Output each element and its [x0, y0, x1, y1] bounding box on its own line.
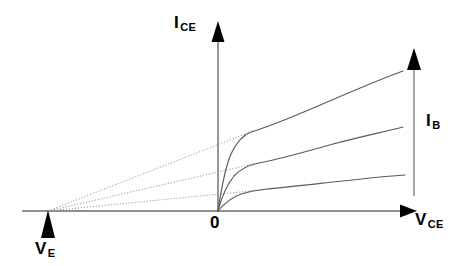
early-voltage-label-main: V	[35, 239, 47, 258]
extrapolation-line-low	[48, 189, 271, 211]
x-axis-label-sub: CE	[427, 218, 444, 230]
y-axis-label-sub: CE	[179, 21, 196, 33]
curve-ib-low	[218, 175, 405, 211]
curve-ib-high	[218, 71, 403, 211]
origin-label: 0	[210, 214, 219, 231]
characteristic-curves-group	[218, 71, 405, 211]
axes-group	[22, 21, 417, 218]
plot-canvas	[0, 0, 459, 266]
early-voltage-indicator	[41, 210, 55, 238]
x-axis-label: VCE	[415, 211, 444, 230]
transistor-characteristic-figure: ICE VCE VE IB 0	[0, 0, 459, 266]
early-voltage-label: VE	[35, 240, 55, 259]
curve-ib-medium	[218, 127, 403, 211]
early-voltage-label-sub: E	[47, 247, 56, 259]
base-current-indicator	[407, 48, 421, 196]
y-axis-label: ICE	[174, 14, 196, 33]
extrapolation-line-high	[48, 131, 253, 211]
x-axis-label-main: V	[415, 210, 427, 229]
base-current-label: IB	[426, 112, 440, 131]
early-voltage-arrowhead	[41, 210, 55, 238]
base-current-arrowhead	[407, 48, 421, 70]
base-current-label-sub: B	[431, 119, 440, 131]
y-axis-arrowhead	[212, 21, 225, 42]
